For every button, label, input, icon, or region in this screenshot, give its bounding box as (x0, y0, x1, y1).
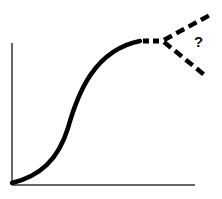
s-curve-diagram: ? (0, 0, 222, 199)
diagram-canvas: ? (0, 0, 222, 199)
question-mark: ? (194, 33, 203, 50)
s-curve-solid (12, 41, 140, 183)
